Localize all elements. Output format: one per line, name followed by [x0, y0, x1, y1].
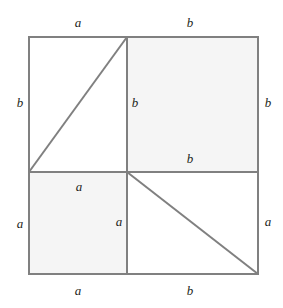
label-right-b: b — [265, 96, 272, 109]
label-middle-b: b — [187, 152, 194, 165]
geometry-figure: a b b b b b a a a a a b — [0, 0, 283, 308]
label-inner-b: b — [132, 96, 139, 109]
label-top-a: a — [75, 16, 82, 29]
label-bottom-a: a — [75, 284, 82, 297]
label-left-b: b — [17, 96, 24, 109]
label-left-a: a — [17, 217, 24, 230]
label-inner-a-top: a — [76, 180, 83, 193]
label-inner-a-mid: a — [116, 215, 123, 228]
geometry-canvas — [0, 0, 283, 308]
label-top-b: b — [187, 16, 194, 29]
label-bottom-b: b — [187, 284, 194, 297]
label-right-a: a — [265, 215, 272, 228]
